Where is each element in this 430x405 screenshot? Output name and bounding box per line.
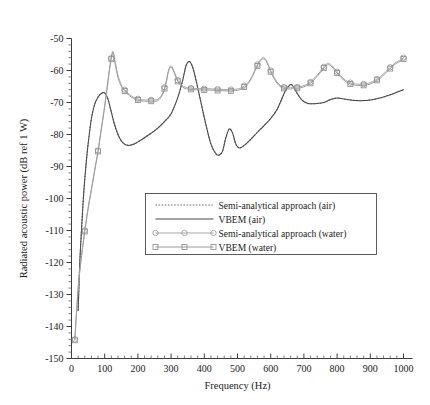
y-tick-label: -130 (45, 289, 63, 300)
chart-figure: -50-60-70-80-90-100-110-120-130-140-150 … (0, 0, 430, 405)
x-tick-label: 100 (97, 363, 112, 374)
x-tick-label: 0 (69, 363, 74, 374)
y-tick-label: -90 (50, 161, 63, 172)
x-tick-label: 800 (330, 363, 345, 374)
x-tick-label: 600 (263, 363, 278, 374)
y-tick-label: -60 (50, 65, 63, 76)
legend-label: VBEM (water) (219, 242, 277, 254)
y-tick-label: -150 (45, 353, 63, 364)
x-tick-label: 200 (130, 363, 145, 374)
x-axis: 01002003004005006007008009001000 (69, 354, 414, 374)
y-axis-title: Radiated acoustic power (dB ref 1 W) (18, 118, 30, 278)
legend-label: Semi-analytical approach (water) (219, 228, 347, 240)
x-tick-label: 1000 (394, 363, 414, 374)
y-tick-label: -110 (46, 225, 64, 236)
x-tick-label: 300 (164, 363, 179, 374)
x-tick-label: 700 (296, 363, 311, 374)
y-tick-label: -70 (50, 97, 63, 108)
legend-label: Semi-analytical approach (air) (219, 200, 336, 212)
y-tick-label: -140 (45, 321, 63, 332)
y-tick-label: -80 (50, 129, 63, 140)
curve-semi-analytical-air (78, 62, 403, 311)
y-tick-label: -100 (45, 193, 63, 204)
y-axis: -50-60-70-80-90-100-110-120-130-140-150 (45, 33, 71, 364)
y-tick-label: -50 (50, 33, 63, 44)
x-tick-label: 500 (230, 363, 245, 374)
chart-legend: Semi-analytical approach (air)VBEM (air)… (146, 194, 377, 255)
acoustic-power-chart: -50-60-70-80-90-100-110-120-130-140-150 … (0, 0, 430, 405)
curve-vbem-air (78, 62, 403, 311)
x-tick-label: 900 (363, 363, 378, 374)
legend-label: VBEM (air) (219, 214, 266, 226)
x-tick-label: 400 (197, 363, 212, 374)
y-tick-label: -120 (45, 257, 63, 268)
x-axis-title: Frequency (Hz) (204, 380, 271, 392)
